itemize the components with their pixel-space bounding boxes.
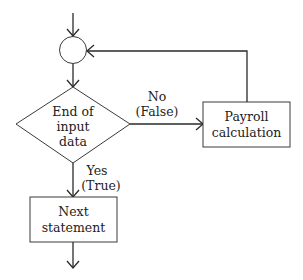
decision-node: End of input data — [16, 87, 130, 163]
next-statement-node: Next statement — [30, 197, 117, 242]
decision-label-line2: input — [56, 119, 89, 134]
no-branch-label: No — [148, 89, 166, 104]
decision-label-line1: End of — [52, 104, 95, 119]
connector-circle — [60, 37, 87, 64]
yes-branch-label: Yes — [86, 163, 108, 178]
payroll-label-line2: calculation — [212, 125, 282, 140]
next-label-line1: Next — [58, 204, 88, 219]
connector-to-decision-arrow — [67, 64, 79, 87]
decision-label-line3: data — [59, 134, 87, 149]
loop-back-arrow — [87, 45, 247, 102]
flowchart-canvas: End of input data No (False) Payroll cal… — [0, 0, 303, 280]
yes-branch-sublabel: (True) — [81, 178, 121, 193]
no-branch-arrow — [130, 118, 203, 130]
payroll-label-line1: Payroll — [225, 109, 269, 124]
no-branch-sublabel: (False) — [136, 104, 179, 119]
exit-arrow — [67, 242, 79, 268]
payroll-process-node: Payroll calculation — [203, 102, 290, 147]
entry-arrow — [67, 13, 79, 36]
yes-branch-arrow — [67, 163, 79, 197]
next-label-line2: statement — [42, 220, 106, 235]
